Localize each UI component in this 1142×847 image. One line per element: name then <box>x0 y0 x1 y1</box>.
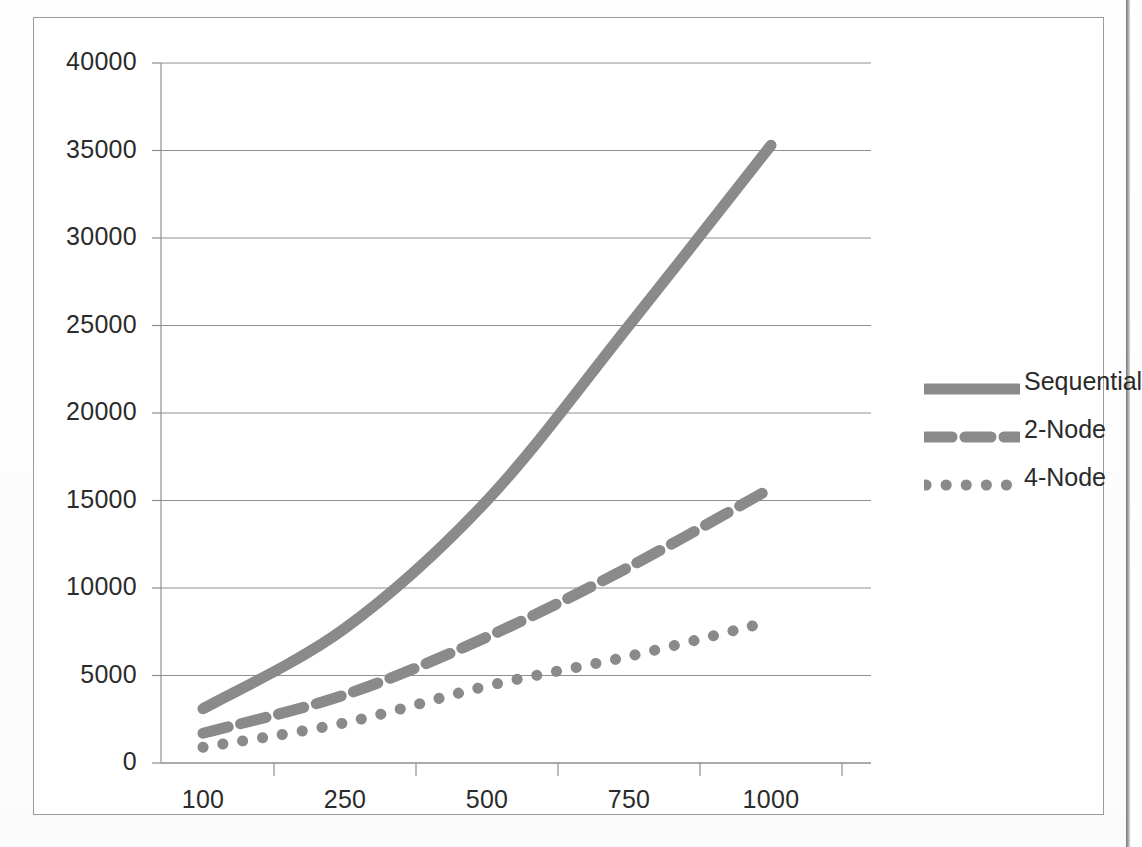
y-axis-tick-label: 25000 <box>17 310 137 339</box>
series-line-2-node <box>203 488 771 733</box>
y-axis-tick-label: 10000 <box>17 572 137 601</box>
x-axis-tick-label: 100 <box>143 785 263 814</box>
y-axis-tick-label: 0 <box>17 747 137 776</box>
y-axis-tick-label: 40000 <box>17 47 137 76</box>
y-axis-tick-label: 20000 <box>17 397 137 426</box>
legend-item: 4-Node <box>924 464 1134 512</box>
legend-label: 2-Node <box>1024 415 1106 444</box>
y-axis-tick-label: 30000 <box>17 222 137 251</box>
legend-line-sample <box>924 478 1020 489</box>
x-axis-tick-label: 250 <box>285 785 405 814</box>
x-axis-tick-label: 500 <box>427 785 547 814</box>
legend-label: Sequential <box>1024 367 1142 396</box>
legend-item: Sequential <box>924 368 1134 416</box>
y-axis-tick-label: 35000 <box>17 135 137 164</box>
x-axis-tick-label: 1000 <box>711 785 831 814</box>
y-axis-tick-label: 15000 <box>17 485 137 514</box>
y-axis-tick-label: 5000 <box>17 660 137 689</box>
chart-legend: Sequential2-Node4-Node <box>924 368 1134 518</box>
legend-item: 2-Node <box>924 416 1134 464</box>
legend-label: 4-Node <box>1024 463 1106 492</box>
x-axis-tick-label: 750 <box>569 785 689 814</box>
legend-line-sample <box>924 430 1020 441</box>
legend-line-sample <box>924 382 1020 393</box>
series-line-sequential <box>203 145 771 709</box>
chart-frame: 0500010000150002000025000300003500040000… <box>33 17 1104 815</box>
